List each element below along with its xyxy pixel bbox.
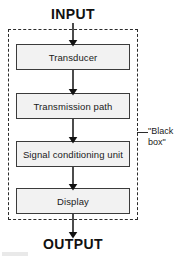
output-label: OUTPUT (0, 236, 146, 252)
stage-label-signal-conditioning-unit: Signal conditioning unit (23, 149, 123, 160)
input-label: INPUT (0, 6, 146, 22)
block-diagram: INPUT Transducer Transmission path Signa… (0, 0, 180, 259)
callout-leader-line (137, 132, 148, 133)
stage-label-transducer: Transducer (49, 52, 98, 63)
stage-label-display: Display (57, 196, 89, 207)
callout-line-1: "Black (148, 126, 180, 137)
black-box-callout: "Black box" (148, 126, 180, 148)
stage-label-transmission-path: Transmission path (34, 101, 113, 112)
stage-block-transmission-path: Transmission path (16, 93, 130, 119)
stage-block-transducer: Transducer (16, 44, 130, 70)
callout-line-2: box" (148, 137, 180, 148)
stage-block-display: Display (16, 188, 130, 214)
scan-edge-artifact (2, 252, 28, 256)
stage-block-signal-conditioning-unit: Signal conditioning unit (16, 141, 130, 167)
